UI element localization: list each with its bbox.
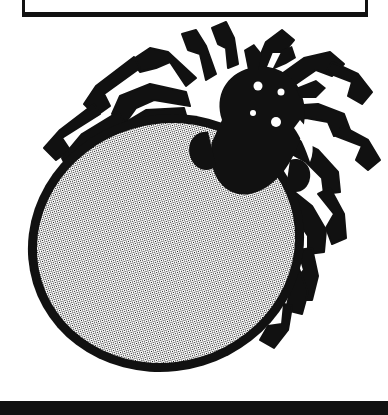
eye-3 [271,117,281,127]
eye-1 [254,82,263,91]
solid-rule [0,401,388,415]
tick-illustration [0,0,388,415]
leg-top-2 [212,22,238,68]
illustration-page: Tick illustration plate [0,0,388,415]
leg-left-1 [132,48,196,86]
eye-2 [278,89,285,96]
pedipalp-right [296,80,326,98]
eye-4 [250,110,256,116]
